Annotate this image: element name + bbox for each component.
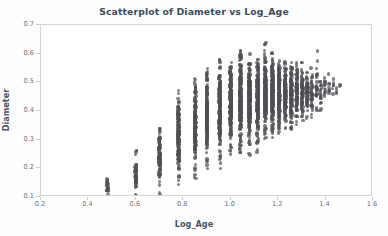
scatter-point bbox=[316, 59, 319, 62]
scatter-point bbox=[315, 92, 318, 95]
scatter-point bbox=[283, 110, 286, 113]
scatter-point bbox=[106, 193, 109, 196]
scatter-point bbox=[177, 113, 180, 116]
scatter-point bbox=[206, 93, 209, 96]
scatter-point bbox=[263, 127, 266, 130]
scatter-point bbox=[305, 115, 308, 118]
scatter-point bbox=[206, 167, 209, 170]
chart-figure: Scatterplot of Diameter vs Log_Age 0.20.… bbox=[0, 0, 388, 236]
scatter-point bbox=[229, 90, 232, 93]
scatter-point bbox=[176, 153, 179, 156]
scatter-point bbox=[277, 102, 280, 105]
scatter-point bbox=[255, 95, 258, 98]
scatter-point bbox=[264, 136, 267, 139]
scatter-point bbox=[277, 115, 280, 118]
scatter-point bbox=[176, 141, 179, 144]
chart-title: Scatterplot of Diameter vs Log_Age bbox=[0, 6, 388, 17]
scatter-point bbox=[193, 156, 196, 159]
scatter-point bbox=[271, 107, 274, 110]
x-tick-label: 1.4 bbox=[310, 200, 340, 208]
scatter-point bbox=[248, 108, 251, 111]
scatter-point bbox=[295, 103, 298, 106]
scatter-point bbox=[283, 115, 286, 118]
scatter-point bbox=[264, 120, 267, 123]
scatter-point bbox=[271, 95, 274, 98]
scatter-point bbox=[289, 83, 292, 86]
scatter-point bbox=[205, 163, 208, 166]
scatter-point bbox=[218, 74, 221, 77]
scatter-point bbox=[300, 108, 303, 111]
x-tick-label: 1.6 bbox=[357, 200, 387, 208]
scatter-point bbox=[295, 92, 298, 95]
scatter-point bbox=[230, 61, 233, 64]
y-tick-label: 0.6 bbox=[0, 49, 34, 57]
scatter-point bbox=[248, 69, 251, 72]
scatter-point bbox=[238, 64, 241, 67]
scatter-point bbox=[256, 58, 259, 61]
scatter-point bbox=[300, 90, 303, 93]
x-tick-label: 0.6 bbox=[120, 200, 150, 208]
scatter-point bbox=[206, 67, 209, 70]
scatter-point bbox=[218, 66, 221, 69]
scatter-point bbox=[300, 61, 303, 64]
scatter-point bbox=[284, 88, 287, 91]
scatter-point bbox=[229, 128, 232, 131]
x-tick-label: 0.8 bbox=[167, 200, 197, 208]
scatter-point bbox=[301, 119, 304, 122]
scatter-point bbox=[290, 61, 293, 64]
scatter-point bbox=[176, 132, 179, 135]
scatter-point bbox=[135, 170, 138, 173]
scatter-point bbox=[271, 72, 274, 75]
scatter-point bbox=[205, 146, 208, 149]
scatter-point bbox=[309, 86, 312, 89]
scatter-point bbox=[193, 173, 196, 176]
scatter-point bbox=[177, 183, 180, 186]
scatter-point bbox=[318, 80, 321, 83]
scatter-point bbox=[193, 139, 196, 142]
y-tick-mark bbox=[36, 167, 40, 168]
scatter-point bbox=[323, 94, 326, 97]
scatter-point bbox=[331, 87, 334, 90]
scatter-point bbox=[255, 141, 258, 144]
scatter-point bbox=[206, 135, 209, 138]
scatter-point bbox=[270, 52, 273, 55]
scatter-point bbox=[219, 161, 222, 164]
x-tick-label: 1.0 bbox=[215, 200, 245, 208]
scatter-point bbox=[290, 68, 293, 71]
scatter-point bbox=[205, 100, 208, 103]
scatter-point bbox=[239, 100, 242, 103]
scatter-points-layer bbox=[41, 25, 371, 195]
scatter-point bbox=[193, 119, 196, 122]
scatter-point bbox=[338, 83, 341, 86]
scatter-point bbox=[228, 132, 231, 135]
scatter-point bbox=[256, 135, 259, 138]
scatter-point bbox=[301, 112, 304, 115]
scatter-point bbox=[157, 148, 160, 151]
scatter-point bbox=[63, 195, 66, 196]
scatter-point bbox=[310, 116, 313, 119]
scatter-point bbox=[238, 87, 241, 90]
scatter-point bbox=[248, 80, 251, 83]
scatter-point bbox=[271, 129, 274, 132]
scatter-point bbox=[296, 96, 299, 99]
scatter-point bbox=[264, 42, 267, 45]
scatter-point bbox=[193, 132, 196, 135]
scatter-point bbox=[218, 142, 221, 145]
scatter-point bbox=[323, 80, 326, 83]
scatter-point bbox=[177, 100, 180, 103]
scatter-point bbox=[284, 126, 287, 129]
x-axis-label: Log_Age bbox=[0, 219, 388, 229]
scatter-point bbox=[218, 60, 221, 63]
scatter-point bbox=[295, 123, 298, 126]
scatter-point bbox=[278, 79, 281, 82]
scatter-point bbox=[205, 113, 208, 116]
x-tick-label: 0.2 bbox=[25, 200, 55, 208]
scatter-point bbox=[306, 109, 309, 112]
scatter-point bbox=[176, 161, 179, 164]
scatter-point bbox=[177, 92, 180, 95]
scatter-point bbox=[206, 116, 209, 119]
scatter-point bbox=[178, 107, 181, 110]
scatter-point bbox=[218, 158, 221, 161]
y-tick-mark bbox=[36, 196, 40, 197]
scatter-point bbox=[257, 100, 260, 103]
